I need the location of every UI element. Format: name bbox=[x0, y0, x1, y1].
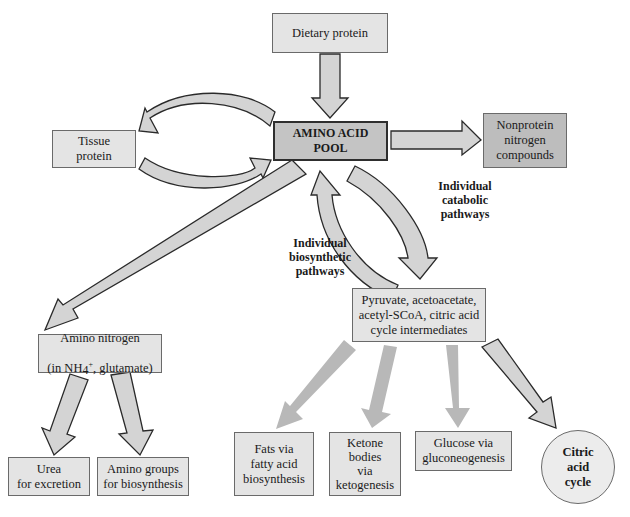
node-ketone-bodies: Ketone bodies via ketogenesis bbox=[329, 432, 401, 496]
arrow-tissue-to-pool bbox=[139, 158, 271, 188]
node-pyruvate-intermediates: Pyruvate, acetoacetate, acetyl-SCoA, cit… bbox=[352, 288, 486, 342]
node-amino-groups: Amino groups for biosynthesis bbox=[97, 457, 189, 496]
arrow-pyruvate-to-fats bbox=[276, 340, 356, 429]
arrow-pyruvate-to-ketone bbox=[361, 345, 397, 428]
amino-nitrogen-line1: Amino nitrogen bbox=[47, 331, 152, 346]
arrow-pool-to-nonprotein bbox=[391, 121, 481, 155]
node-glucose: Glucose via gluconeogenesis bbox=[415, 431, 512, 471]
node-tissue-protein-label: Tissue protein bbox=[76, 134, 111, 164]
node-fats: Fats via fatty acid biosynthesis bbox=[234, 432, 314, 496]
node-amino-nitrogen: Amino nitrogen (in NH4+, glutamate) bbox=[38, 334, 162, 373]
node-fats-label: Fats via fatty acid biosynthesis bbox=[243, 442, 305, 487]
arrow-pyruvate-to-citric-acid-cycle bbox=[482, 339, 556, 428]
node-urea: Urea for excretion bbox=[8, 457, 90, 496]
node-nonprotein-nitrogen: Nonprotein nitrogen compounds bbox=[483, 113, 567, 168]
arrow-pyruvate-to-glucose bbox=[445, 345, 470, 428]
amino-nitrogen-line2: (in NH4+, glutamate) bbox=[47, 361, 152, 376]
arrow-dietary-to-pool bbox=[312, 54, 348, 118]
arrow-pool-to-tissue bbox=[139, 93, 275, 133]
node-amino-nitrogen-label: Amino nitrogen (in NH4+, glutamate) bbox=[47, 316, 152, 391]
label-biosynthetic-pathways: Individual biosynthetic pathways bbox=[270, 236, 370, 278]
node-dietary-protein-label: Dietary protein bbox=[292, 26, 368, 41]
node-dietary-protein: Dietary protein bbox=[272, 13, 388, 53]
node-urea-label: Urea for excretion bbox=[17, 462, 81, 492]
node-glucose-label: Glucose via gluconeogenesis bbox=[422, 436, 505, 466]
node-tissue-protein: Tissue protein bbox=[52, 130, 136, 168]
amino-nitrogen-subscript: 4 bbox=[82, 363, 88, 377]
node-nonprotein-nitrogen-label: Nonprotein nitrogen compounds bbox=[496, 118, 554, 163]
node-pyruvate-intermediates-label: Pyruvate, acetoacetate, acetyl-SCoA, cit… bbox=[359, 293, 479, 338]
label-catabolic-pathways: Individual catabolic pathways bbox=[420, 179, 510, 221]
node-citric-acid-cycle-label: Citric acid cycle bbox=[562, 445, 593, 490]
node-amino-acid-pool-label: AMINO ACID POOL bbox=[293, 126, 369, 156]
node-amino-acid-pool: AMINO ACID POOL bbox=[273, 121, 388, 161]
amino-nitrogen-line2-pre: (in NH bbox=[47, 361, 82, 375]
node-amino-groups-label: Amino groups for biosynthesis bbox=[103, 462, 183, 492]
node-citric-acid-cycle: Citric acid cycle bbox=[541, 430, 615, 504]
amino-nitrogen-line2-post: , glutamate) bbox=[93, 361, 153, 375]
node-ketone-bodies-label: Ketone bodies via ketogenesis bbox=[336, 436, 394, 492]
